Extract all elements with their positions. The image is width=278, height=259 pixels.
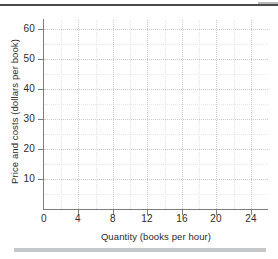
gridline-horizontal — [44, 29, 268, 30]
page-bottom-rule — [14, 248, 266, 252]
gridline-vertical — [182, 20, 183, 209]
y-tick-mark — [38, 59, 44, 60]
x-axis-line — [43, 209, 268, 210]
y-axis-line — [43, 19, 44, 210]
y-tick-mark — [38, 179, 44, 180]
x-tick-label: 4 — [66, 213, 90, 224]
x-tick-label: 8 — [101, 213, 125, 224]
x-tick-label: 24 — [239, 213, 263, 224]
gridline-vertical — [113, 20, 114, 209]
gridline-horizontal — [44, 119, 268, 120]
gridline-vertical-minor — [61, 20, 62, 209]
x-tick-label: 12 — [135, 213, 159, 224]
x-tick-label: 0 — [32, 213, 56, 224]
x-tick-label: 20 — [204, 213, 228, 224]
gridline-vertical-minor — [130, 20, 131, 209]
x-tick-label: 16 — [170, 213, 194, 224]
y-tick-mark — [38, 149, 44, 150]
gridline-vertical-minor — [96, 20, 97, 209]
gridline-vertical — [251, 20, 252, 209]
gridline-vertical — [78, 20, 79, 209]
gridline-horizontal — [44, 59, 268, 60]
plot-area — [44, 20, 268, 209]
y-tick-mark — [38, 119, 44, 120]
gridline-vertical-minor — [199, 20, 200, 209]
gridline-vertical — [147, 20, 148, 209]
gridline-horizontal — [44, 179, 268, 180]
gridline-vertical-minor — [234, 20, 235, 209]
chart-figure: 102030405060 04812162024 Price and costs… — [0, 0, 278, 259]
gridline-horizontal — [44, 89, 268, 90]
y-tick-mark — [38, 89, 44, 90]
gridline-vertical-minor — [165, 20, 166, 209]
y-tick-mark — [38, 29, 44, 30]
page-top-rule-tail — [258, 2, 278, 4]
y-axis-title: Price and costs (dollars per book) — [9, 12, 20, 212]
page-top-rule — [0, 4, 278, 6]
x-axis-title: Quantity (books per hour) — [44, 231, 268, 242]
gridline-horizontal — [44, 149, 268, 150]
gridline-vertical — [216, 20, 217, 209]
